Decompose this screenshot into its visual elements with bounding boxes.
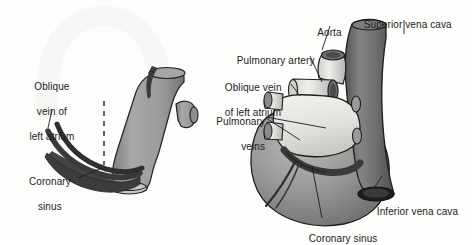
label-pulmonary-artery: Pulmonary artery xyxy=(231,42,329,67)
label-inferior-vena-cava: Inferior vena cava xyxy=(371,193,472,218)
label-coronary-sinus-left: Coronary sinus xyxy=(16,163,78,213)
label-aorta: Aorta xyxy=(312,14,352,39)
label-oblique-vein-of-left-atrium-left: Oblique vein of left atrium xyxy=(14,68,84,144)
label-superior-vena-cava: Superior vena cava xyxy=(358,6,470,31)
label-pulmonary-veins: Pulmonary veins xyxy=(203,103,265,153)
label-coronary-sinus-right: Coronary sinus xyxy=(303,220,393,245)
